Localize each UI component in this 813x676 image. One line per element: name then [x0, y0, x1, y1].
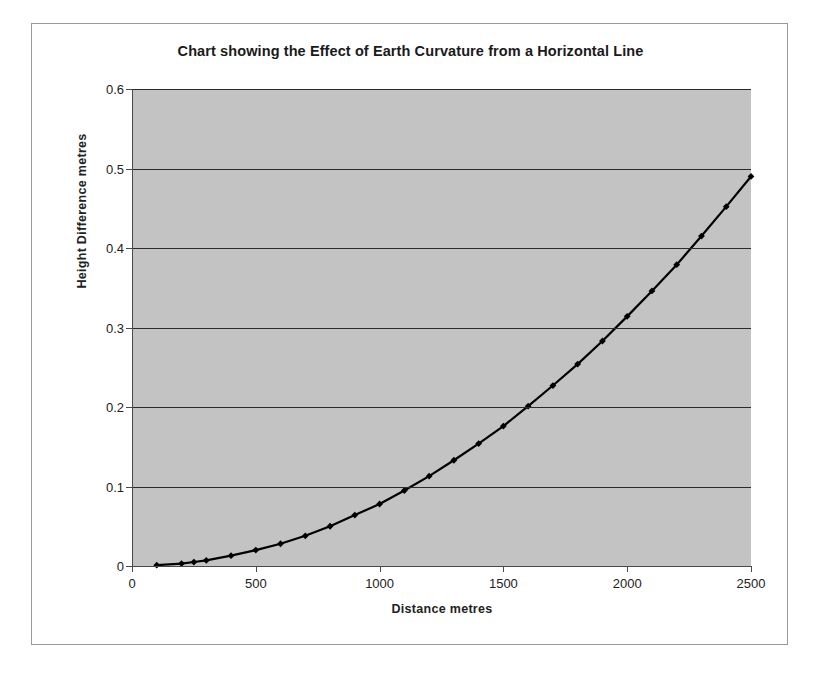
gridline-y-0.1 [132, 487, 751, 488]
data-point-marker-9 [351, 512, 358, 519]
x-tick-mark-1 [256, 566, 257, 572]
y-tick-label-1: 0.1 [64, 479, 124, 494]
y-tick-mark-4 [126, 248, 132, 249]
x-tick-mark-5 [751, 566, 752, 572]
x-tick-label-2: 1000 [345, 576, 415, 591]
y-tick-label-6: 0.6 [64, 82, 124, 97]
y-tick-label-5: 0.5 [64, 161, 124, 176]
gridline-y-0.2 [132, 407, 751, 408]
gridline-y-0.4 [132, 248, 751, 249]
x-tick-mark-2 [380, 566, 381, 572]
plot-area [132, 89, 751, 566]
y-tick-label-3: 0.3 [64, 320, 124, 335]
y-tick-label-4: 0.4 [64, 241, 124, 256]
x-tick-label-0: 0 [97, 576, 167, 591]
y-tick-mark-2 [126, 407, 132, 408]
y-tick-mark-5 [126, 169, 132, 170]
series-polyline [157, 176, 751, 565]
gridline-y-0.3 [132, 328, 751, 329]
x-tick-label-3: 1500 [468, 576, 538, 591]
chart-frame: Chart showing the Effect of Earth Curvat… [31, 23, 788, 645]
data-point-marker-2 [191, 559, 198, 566]
x-tick-mark-3 [503, 566, 504, 572]
y-axis-line [132, 89, 133, 567]
chart-title: Chart showing the Effect of Earth Curvat… [32, 43, 789, 59]
data-point-marker-7 [302, 532, 309, 539]
gridline-y-0.6 [132, 89, 751, 90]
data-point-marker-5 [252, 547, 259, 554]
y-axis-title: Height Difference metres [75, 101, 89, 321]
y-tick-label-0: 0 [64, 559, 124, 574]
x-tick-mark-4 [627, 566, 628, 572]
data-point-marker-3 [203, 557, 210, 564]
data-point-marker-4 [228, 552, 235, 559]
y-tick-mark-3 [126, 328, 132, 329]
gridline-y-0.5 [132, 169, 751, 170]
x-axis-title: Distance metres [132, 602, 752, 616]
x-tick-label-5: 2500 [716, 576, 786, 591]
data-point-marker-8 [327, 523, 334, 530]
y-tick-mark-1 [126, 487, 132, 488]
x-axis-line [132, 566, 752, 567]
x-tick-label-1: 500 [221, 576, 291, 591]
x-tick-mark-0 [132, 566, 133, 572]
data-point-marker-6 [277, 540, 284, 547]
y-tick-label-2: 0.2 [64, 400, 124, 415]
y-tick-mark-6 [126, 89, 132, 90]
x-tick-label-4: 2000 [592, 576, 662, 591]
